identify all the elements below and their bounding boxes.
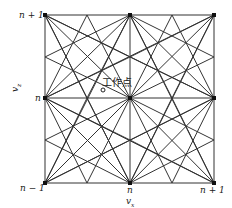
y-tick-top: n + 1 [19,11,44,20]
operating-point-label: 工作点 [102,78,132,88]
operating-point-marker [101,88,105,92]
x-tick-middle: n [127,186,133,195]
x-axis-label: vx [126,197,134,208]
switching-vector-mesh [0,0,232,208]
y-tick-bottom: n − 1 [20,184,45,193]
cell-bottom-left [45,98,130,183]
y-tick-middle: n [35,94,41,103]
y-axis-label: vz [11,84,22,92]
cell-top-right [130,15,214,98]
cell-bottom-right [130,98,214,183]
x-tick-right: n + 1 [200,186,225,195]
